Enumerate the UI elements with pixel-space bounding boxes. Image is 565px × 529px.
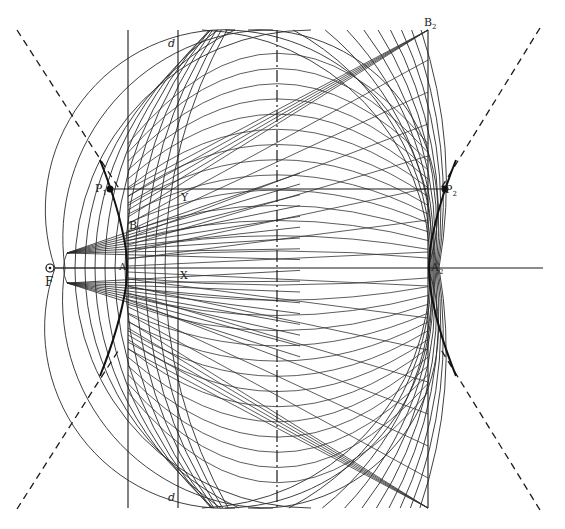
diag-down <box>128 272 428 286</box>
diag-up <box>128 30 428 203</box>
asymptote-2 <box>440 28 540 190</box>
diag-up <box>128 220 428 259</box>
asymptote-1 <box>17 348 120 509</box>
diag-up <box>128 30 428 210</box>
diag-up <box>128 156 428 245</box>
ray <box>67 283 300 324</box>
focus-marker <box>46 264 54 272</box>
left-arc-top <box>145 30 216 268</box>
ray <box>67 216 300 253</box>
label-d-top: d <box>168 38 175 49</box>
diagonal-line-family <box>128 30 428 508</box>
right-arc-bottom <box>345 268 434 508</box>
label-P1: P1 <box>95 183 107 197</box>
label-B1: B1 <box>129 220 142 234</box>
right-arc-bottom <box>322 268 432 508</box>
diag-down <box>128 293 428 382</box>
hyperbola-construction-diagram <box>0 0 565 529</box>
label-B2-sub: 2 <box>432 23 436 31</box>
ray <box>67 283 300 346</box>
label-P2: P2 <box>445 184 457 198</box>
label-B2-main: B <box>424 16 432 29</box>
label-F: F <box>45 276 53 288</box>
diag-down <box>128 328 428 508</box>
center-arc-bottom <box>128 340 428 392</box>
label-A2: A2 <box>431 262 443 276</box>
label-P1-sub: 1 <box>102 189 106 197</box>
right-arc-top <box>202 30 430 268</box>
center-arc-top <box>128 221 428 241</box>
label-A2-sub: 2 <box>439 268 443 276</box>
focus-dot-icon <box>49 267 52 270</box>
asymptote-0 <box>17 30 120 190</box>
label-A1: A <box>119 262 126 272</box>
right-arc-family <box>202 30 446 509</box>
label-B1-sub: 1 <box>137 226 141 234</box>
left-arc-bottom <box>63 268 273 508</box>
label-P2-sub: 2 <box>452 190 456 198</box>
label-B1-main: B <box>129 219 137 232</box>
label-Y: Y <box>181 192 188 203</box>
center-arc-top <box>128 160 428 206</box>
left-arc-top <box>75 30 311 268</box>
label-d-bottom: d <box>168 492 175 503</box>
left-arc-bottom <box>45 268 235 508</box>
center-arc-top <box>128 205 428 231</box>
center-arc-top <box>128 84 428 162</box>
label-B2: B2 <box>424 17 437 31</box>
label-X: X <box>180 270 188 281</box>
left-arc-top <box>165 30 227 268</box>
left-arc-top <box>155 30 221 268</box>
point-P1 <box>108 187 113 192</box>
label-A2-main: A <box>431 261 439 274</box>
